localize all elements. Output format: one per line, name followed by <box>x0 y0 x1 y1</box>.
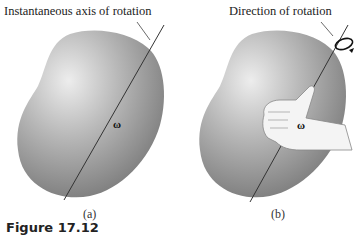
panel-a-callout: Instantaneous axis of rotation <box>4 4 152 19</box>
panel-b-callout-leader <box>321 22 333 36</box>
panel-a-callout-leader <box>137 22 150 40</box>
panel-a-rigid-body <box>17 30 164 197</box>
figure-graphics <box>0 0 360 242</box>
figure-caption: Figure 17.12 <box>6 220 99 235</box>
figure: Instantaneous axis of rotation Direction… <box>0 0 360 242</box>
panel-b-omega-label: ω <box>297 119 305 131</box>
panel-a-omega-label: ω <box>113 118 121 130</box>
panel-b-callout: Direction of rotation <box>229 4 332 19</box>
panel-b-sublabel: (b) <box>271 207 285 222</box>
